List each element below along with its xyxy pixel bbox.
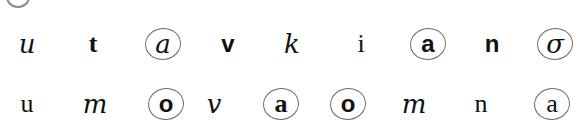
letter-glyph: u — [21, 91, 34, 117]
letter-glyph: v — [221, 32, 234, 56]
circle-mark — [532, 86, 572, 123]
circle-mark — [146, 86, 186, 123]
letter-glyph: k — [284, 31, 300, 57]
partial-circle-mark — [6, 0, 30, 8]
letter-glyph: t — [89, 31, 98, 57]
letter-cell[interactable]: n — [459, 86, 503, 122]
circle-mark — [261, 86, 301, 123]
letter-cell[interactable]: u — [5, 86, 49, 122]
letter-cell[interactable]: m — [73, 86, 117, 122]
letter-cell[interactable]: i — [339, 26, 383, 62]
letter-cell[interactable]: o — [326, 86, 370, 122]
letter-cell[interactable]: v — [192, 86, 236, 122]
letter-cell[interactable]: n — [470, 26, 514, 62]
letter-cell[interactable]: a — [406, 26, 450, 62]
letter-glyph: i — [357, 31, 364, 57]
letter-glyph: m — [83, 91, 108, 117]
letter-cell[interactable]: m — [392, 86, 436, 122]
circle-mark — [408, 26, 448, 63]
letter-glyph: m — [402, 91, 427, 117]
letter-cell[interactable]: a — [141, 26, 185, 62]
circle-mark — [143, 26, 183, 63]
letter-glyph: v — [207, 91, 222, 117]
letter-cell[interactable]: σ — [533, 26, 573, 62]
letter-glyph: n — [485, 32, 500, 56]
letter-glyph: u — [19, 31, 36, 57]
letter-glyph: n — [475, 91, 488, 117]
circle-mark — [535, 26, 573, 63]
letter-cell[interactable]: o — [144, 86, 188, 122]
letter-cell[interactable]: v — [206, 26, 250, 62]
letter-cell[interactable]: u — [5, 26, 49, 62]
letter-cell[interactable]: a — [259, 86, 303, 122]
circle-mark — [328, 86, 368, 123]
letter-cell[interactable]: k — [270, 26, 314, 62]
letter-cell[interactable]: a — [530, 86, 573, 122]
letter-cell[interactable]: t — [71, 26, 115, 62]
